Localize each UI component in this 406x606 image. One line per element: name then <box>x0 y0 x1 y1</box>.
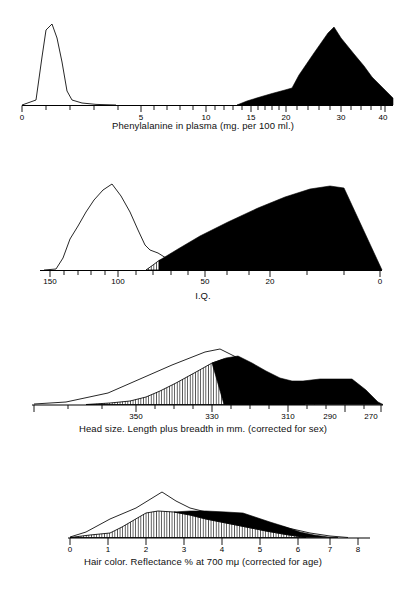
x-axis-ticks <box>34 405 381 412</box>
x-axis-tick-labels: 150 100 50 20 0 <box>43 277 382 284</box>
tick-label: 8 <box>356 545 361 552</box>
x-axis-tick-labels: 0 5 10 15 20 30 40 <box>20 113 388 120</box>
panel-head-size: 350 330 310 290 270 Head size. Length pl… <box>0 323 406 434</box>
tick-label: 20 <box>266 277 275 284</box>
panel-caption-hair-color: Hair color. Reflectance % at 700 mμ (cor… <box>0 556 406 567</box>
tick-label: 290 <box>323 412 337 419</box>
tick-label: 330 <box>205 412 219 419</box>
tick-label: 1 <box>106 545 111 552</box>
x-axis-tick-labels: 0 1 2 3 4 5 6 7 8 <box>68 545 361 552</box>
tick-label: 4 <box>220 545 225 552</box>
tick-label: 30 <box>337 113 346 120</box>
chart-phenylalanine: 0 5 10 15 20 30 40 <box>0 0 406 120</box>
chart-iq: 150 100 50 20 0 <box>0 162 406 284</box>
tick-label: 40 <box>379 113 388 120</box>
curve-pku-solid <box>237 27 393 105</box>
x-axis-ticks <box>22 106 385 113</box>
tick-label: 5 <box>258 545 263 552</box>
tick-label: 10 <box>202 113 211 120</box>
tick-label: 50 <box>201 277 210 284</box>
tick-label: 3 <box>182 545 187 552</box>
panel-iq: 150 100 50 20 0 I.Q. <box>0 162 406 301</box>
tick-label: 0 <box>68 545 73 552</box>
tick-label: 7 <box>328 545 333 552</box>
phenylketonuria-figure: 0 5 10 15 20 30 40 Phenylalanine in plas… <box>0 0 406 606</box>
tick-label: 15 <box>247 113 256 120</box>
chart-head-size: 350 330 310 290 270 <box>0 323 406 419</box>
tick-label: 5 <box>139 113 144 120</box>
tick-label: 0 <box>378 277 383 284</box>
curve-normal-outline <box>44 184 182 270</box>
tick-label: 350 <box>129 412 143 419</box>
tick-label: 20 <box>282 113 291 120</box>
tick-label: 150 <box>43 277 57 284</box>
tick-label: 310 <box>281 412 295 419</box>
panel-hair-color: 0 1 2 3 4 5 6 7 8 Hair color. Reflectanc… <box>0 456 406 567</box>
tick-label: 270 <box>364 412 378 419</box>
x-axis-tick-labels: 350 330 310 290 270 <box>129 412 378 419</box>
chart-hair-color: 0 1 2 3 4 5 6 7 8 <box>0 456 406 552</box>
curve-normal-outline <box>22 24 116 105</box>
tick-label: 2 <box>144 545 149 552</box>
curve-pku-solid <box>212 356 383 405</box>
panel-caption-head-size: Head size. Length plus breadth in mm. (c… <box>0 423 406 434</box>
panel-caption-phenylalanine: Phenylalanine in plasma (mg. per 100 ml.… <box>0 120 406 131</box>
curve-pku-solid <box>159 186 382 270</box>
x-axis-ticks <box>50 271 380 278</box>
panel-caption-iq: I.Q. <box>0 290 406 301</box>
panel-phenylalanine: 0 5 10 15 20 30 40 Phenylalanine in plas… <box>0 0 406 131</box>
x-axis-ticks <box>70 538 358 545</box>
tick-label: 100 <box>111 277 125 284</box>
tick-label: 6 <box>296 545 301 552</box>
tick-label: 0 <box>20 113 25 120</box>
